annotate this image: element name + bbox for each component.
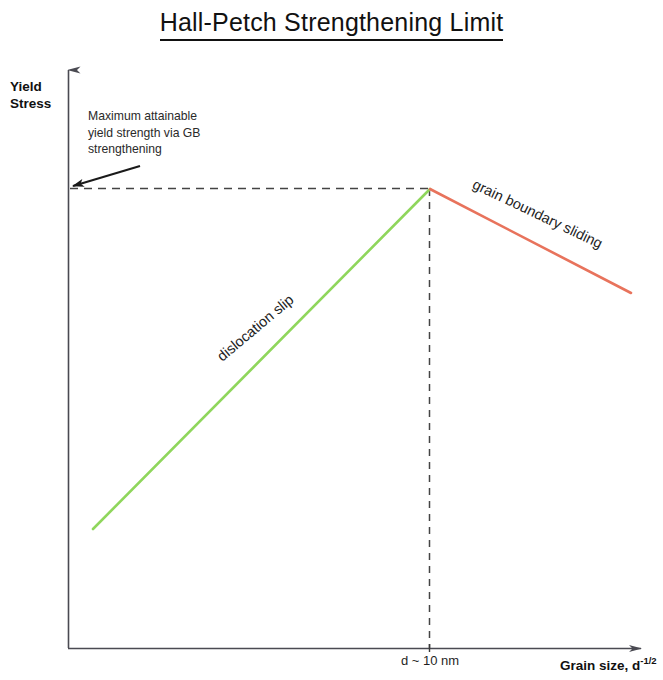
grain-boundary-sliding-curve	[430, 189, 631, 293]
max-strength-annotation-arrow	[73, 166, 140, 186]
dislocation-slip-curve	[93, 189, 430, 529]
hall-petch-figure: Hall-Petch Strengthening Limit Yield Str…	[0, 0, 663, 680]
plot-canvas	[0, 0, 663, 680]
